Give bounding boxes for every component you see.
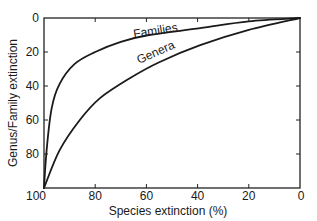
y-tick-20: 20: [26, 45, 40, 59]
x-tick-20: 20: [242, 189, 256, 203]
genera-label: Genera: [135, 38, 178, 67]
y-tick-80: 80: [26, 147, 40, 161]
x-tick-80: 80: [89, 189, 103, 203]
y-tick-labels: 0 20 40 60 80: [26, 11, 40, 161]
y-tick-40: 40: [26, 79, 40, 93]
x-tick-100: 100: [26, 189, 46, 203]
x-tick-40: 40: [191, 189, 205, 203]
x-tick-labels: 100 80 60 40 20 0: [26, 189, 305, 203]
y-axis-label: Genus/Family extinction: [6, 39, 20, 167]
y-ticks: [44, 52, 300, 154]
x-tick-60: 60: [140, 189, 154, 203]
y-tick-0: 0: [32, 11, 39, 25]
chart-figure: 0 20 40 60 80 100 80 60 40 20 0 Species …: [0, 0, 317, 221]
families-label: Families: [132, 20, 178, 41]
x-tick-0: 0: [298, 189, 305, 203]
y-tick-60: 60: [26, 113, 40, 127]
x-axis-label: Species extinction (%): [109, 204, 228, 218]
